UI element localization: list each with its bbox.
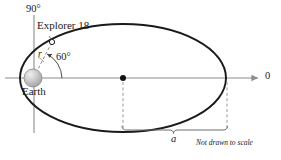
label-radius-r: r <box>38 50 42 60</box>
label-angle-zero: 0 <box>265 71 270 82</box>
label-not-to-scale: Not drawn to scale <box>196 139 253 147</box>
label-earth: Earth <box>22 86 46 97</box>
ellipse-center-dot <box>120 75 126 81</box>
figure-canvas: 90° Explorer 18 r 60° Earth 0 a Not draw… <box>0 0 281 160</box>
satellite-marker <box>49 39 54 44</box>
label-semi-major-axis: a <box>171 134 176 145</box>
label-satellite-name: Explorer 18 <box>37 20 89 31</box>
label-angle-90: 90° <box>26 4 41 15</box>
label-angle-60: 60° <box>56 52 71 63</box>
